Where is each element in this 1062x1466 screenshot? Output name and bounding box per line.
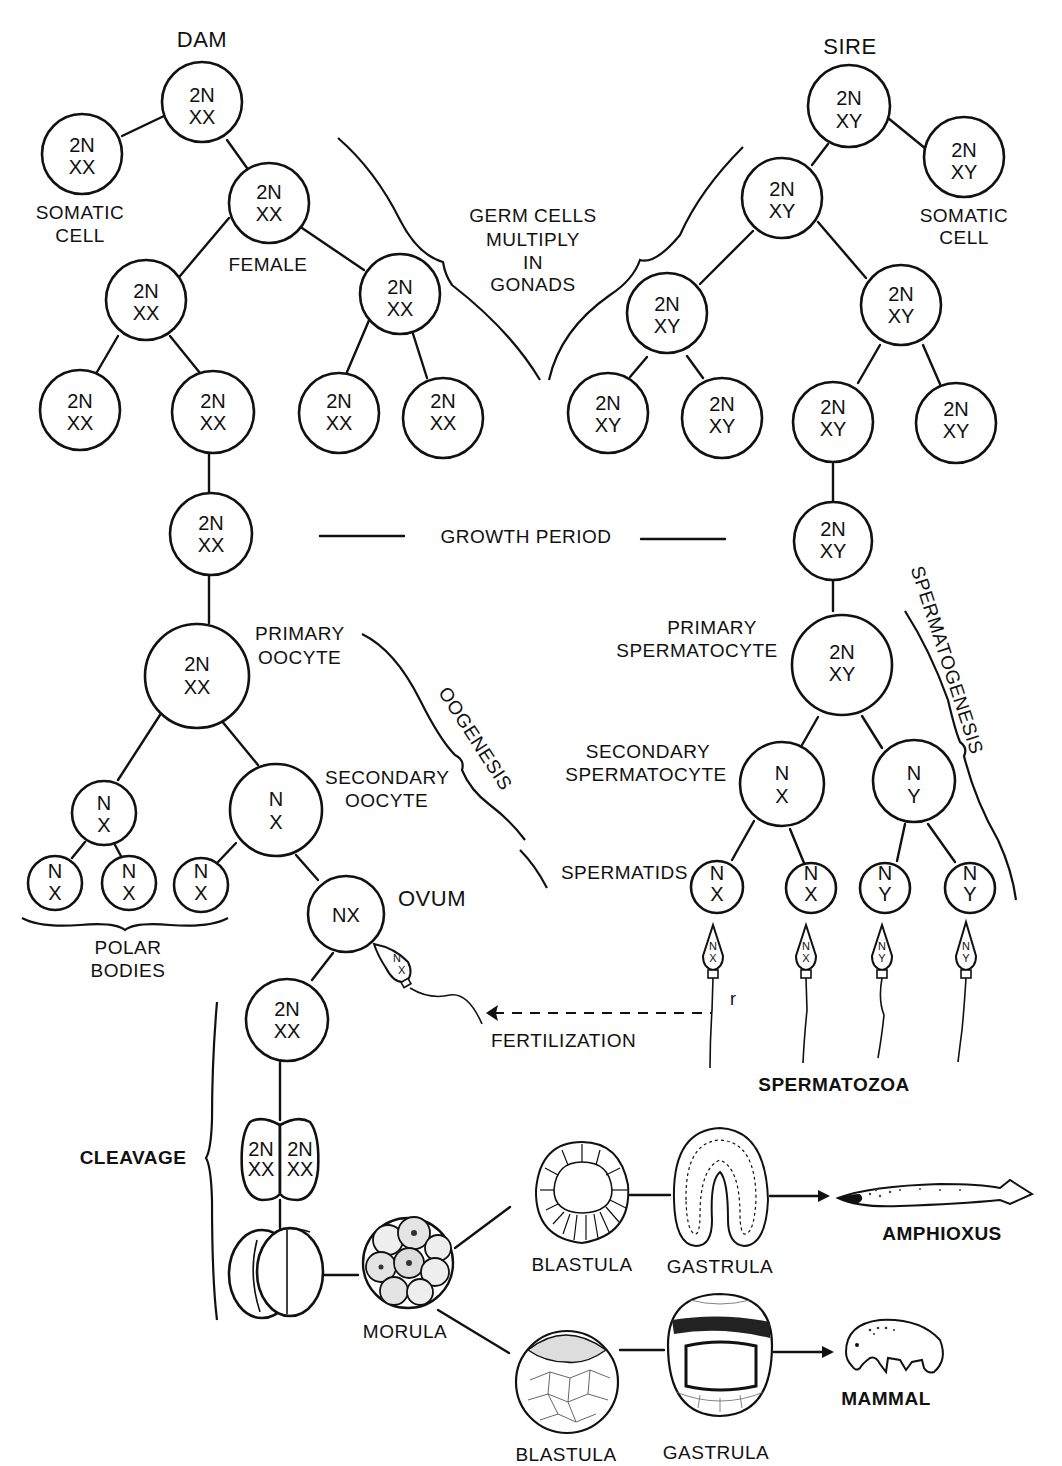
germ-cells-left-brace bbox=[338, 138, 540, 380]
polar-bodies-label-2: BODIES bbox=[91, 960, 166, 981]
svg-text:X: X bbox=[802, 952, 810, 964]
svg-text:N: N bbox=[48, 860, 62, 882]
svg-text:X: X bbox=[269, 811, 282, 833]
sire-gen3-cell-b: 2N XY bbox=[682, 378, 762, 458]
svg-text:Y: Y bbox=[962, 952, 970, 964]
svg-text:XY: XY bbox=[769, 200, 796, 222]
svg-text:XX: XX bbox=[326, 412, 353, 434]
arrowhead-icon bbox=[818, 1190, 830, 1202]
female-label: FEMALE bbox=[228, 254, 307, 275]
spermatid-1: N X bbox=[691, 861, 743, 913]
mammal-label: MAMMAL bbox=[841, 1388, 931, 1409]
svg-text:2N: 2N bbox=[769, 178, 795, 200]
dam-root-cell: 2N XX bbox=[162, 62, 242, 142]
dam-growth-cell: 2N XX bbox=[170, 493, 252, 575]
svg-text:XY: XY bbox=[836, 110, 863, 132]
dam-somatic-label: SOMATIC bbox=[36, 202, 125, 223]
svg-text:XX: XX bbox=[387, 298, 414, 320]
gametogenesis-diagram: DAM 2N XX 2N XX SOMATIC CELL 2N bbox=[0, 0, 1062, 1466]
dam-title: DAM bbox=[177, 27, 227, 52]
svg-text:N: N bbox=[907, 762, 921, 784]
sire-somatic-cell: 2N XY bbox=[924, 117, 1004, 197]
svg-text:N: N bbox=[97, 792, 111, 814]
polar-body-a: N X bbox=[28, 856, 82, 910]
spermatozoon-4: N Y bbox=[956, 922, 976, 1062]
svg-text:X: X bbox=[775, 785, 788, 807]
svg-text:XX: XX bbox=[287, 1158, 314, 1180]
svg-text:2N: 2N bbox=[67, 390, 93, 412]
blastula-top-icon bbox=[536, 1142, 628, 1243]
amphioxus-label: AMPHIOXUS bbox=[882, 1223, 1002, 1244]
svg-text:N: N bbox=[804, 862, 818, 884]
svg-text:N: N bbox=[878, 862, 892, 884]
svg-text:XX: XX bbox=[69, 156, 96, 178]
svg-text:N: N bbox=[710, 862, 724, 884]
secondary-oocyte-label: SECONDARY bbox=[325, 767, 450, 788]
spermatozoa-label: SPERMATOZOA bbox=[758, 1074, 910, 1095]
svg-text:N: N bbox=[963, 862, 977, 884]
svg-text:XY: XY bbox=[654, 315, 681, 337]
svg-text:N: N bbox=[802, 940, 810, 952]
svg-text:XY: XY bbox=[951, 161, 978, 183]
primary-spermatocyte-label: PRIMARY bbox=[667, 617, 757, 638]
svg-text:X: X bbox=[194, 882, 207, 904]
svg-text:XX: XX bbox=[133, 302, 160, 324]
svg-text:2N: 2N bbox=[200, 390, 226, 412]
svg-text:2N: 2N bbox=[888, 283, 914, 305]
primary-oocyte-cell: 2N XX bbox=[145, 624, 249, 728]
svg-text:XX: XX bbox=[198, 534, 225, 556]
spermatid-3: N Y bbox=[860, 862, 910, 913]
secondary-oocyte-cell: N X bbox=[230, 764, 322, 856]
gastrula-top-label: GASTRULA bbox=[667, 1256, 773, 1277]
svg-text:2N: 2N bbox=[709, 393, 735, 415]
svg-text:XY: XY bbox=[888, 305, 915, 327]
germ-cells-label-3: IN bbox=[523, 252, 543, 273]
stray-mark: r bbox=[730, 989, 736, 1009]
svg-text:2N: 2N bbox=[189, 84, 215, 106]
svg-text:XX: XX bbox=[67, 412, 94, 434]
sire-gen2-right-cell: 2N XY bbox=[861, 265, 941, 345]
svg-text:N: N bbox=[962, 940, 970, 952]
svg-text:2N: 2N bbox=[133, 280, 159, 302]
svg-text:X: X bbox=[48, 882, 61, 904]
svg-text:X: X bbox=[122, 882, 135, 904]
svg-text:N: N bbox=[269, 788, 283, 810]
svg-text:XX: XX bbox=[256, 203, 283, 225]
svg-text:XX: XX bbox=[430, 412, 457, 434]
morula-label: MORULA bbox=[363, 1321, 447, 1342]
sire-somatic-label: SOMATIC bbox=[920, 205, 1009, 226]
svg-text:2N: 2N bbox=[387, 276, 413, 298]
svg-text:2N: 2N bbox=[248, 1138, 274, 1160]
svg-text:2N: 2N bbox=[326, 390, 352, 412]
svg-text:X: X bbox=[398, 964, 406, 976]
dam-gen3-cell-a: 2N XX bbox=[40, 370, 120, 450]
morula-to-blastula-bottom-line bbox=[438, 1310, 509, 1353]
blastula-top-label: BLASTULA bbox=[531, 1254, 632, 1275]
ovum-label: OVUM bbox=[398, 886, 466, 911]
first-polar-body-cell: N X bbox=[72, 781, 136, 845]
svg-text:N: N bbox=[878, 940, 886, 952]
svg-text:XY: XY bbox=[709, 415, 736, 437]
zygote-cell: 2N XX bbox=[246, 979, 328, 1061]
sire-somatic-label-2: CELL bbox=[939, 227, 989, 248]
fertilizing-sperm: N X bbox=[374, 944, 482, 1024]
four-cell-stage bbox=[229, 1228, 323, 1318]
svg-text:X: X bbox=[804, 883, 817, 905]
svg-text:Y: Y bbox=[878, 952, 886, 964]
primary-oocyte-label-2: OOCYTE bbox=[258, 647, 341, 668]
svg-text:Y: Y bbox=[907, 785, 920, 807]
svg-text:2N: 2N bbox=[184, 653, 210, 675]
germ-cells-label: GERM CELLS bbox=[469, 205, 596, 226]
svg-text:XX: XX bbox=[184, 676, 211, 698]
spermatozoon-3: N Y bbox=[872, 925, 892, 1058]
secondary-spermatocyte-x-cell: N X bbox=[740, 742, 824, 826]
svg-text:N: N bbox=[393, 952, 401, 964]
svg-text:2N: 2N bbox=[256, 181, 282, 203]
mammal-embryo-icon bbox=[846, 1320, 943, 1373]
spermatozoon-1: N X bbox=[703, 925, 723, 1068]
gastrula-top-icon bbox=[674, 1128, 768, 1246]
dam-somatic-label-2: CELL bbox=[55, 225, 105, 246]
ovum-cell: NX bbox=[308, 876, 384, 952]
svg-text:X: X bbox=[97, 814, 110, 836]
svg-text:XX: XX bbox=[189, 106, 216, 128]
